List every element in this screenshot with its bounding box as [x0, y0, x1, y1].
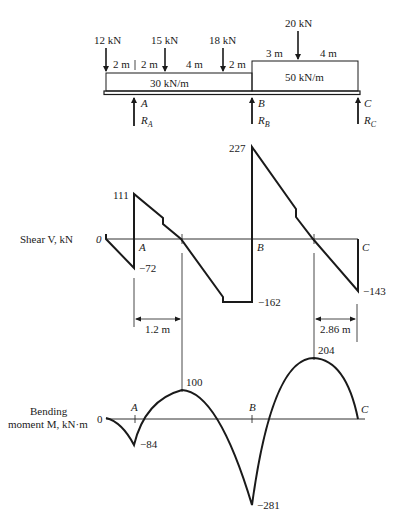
support-label-c: C — [364, 97, 372, 109]
moment-point-a: A — [130, 401, 138, 413]
support-label-b: B — [258, 97, 265, 109]
shear-point-a: A — [138, 241, 146, 253]
span-label: 2 m — [141, 58, 158, 70]
loading-diagram: 30 kN/m 50 kN/m 12 kN 15 kN 18 kN 20 kN … — [94, 17, 377, 129]
moment-curve — [106, 358, 358, 505]
shear-curve — [106, 147, 358, 302]
support-label-a: A — [140, 97, 148, 109]
shear-point-b: B — [257, 241, 264, 253]
beam — [104, 91, 360, 95]
distributed-load-50-label: 50 kN/m — [285, 71, 324, 83]
shear-value-neg143: −143 — [363, 285, 386, 297]
moment-zero-label: 0 — [97, 413, 103, 425]
moment-axis-label-1: Bending — [30, 405, 68, 417]
shear-value-neg72: −72 — [139, 262, 156, 274]
point-load-label: 20 kN — [285, 17, 312, 29]
shear-diagram: Shear V, kN 0 A B C 111 227 −72 −162 −14… — [20, 142, 386, 308]
moment-value-neg84: −84 — [140, 438, 158, 450]
dimension-label-2: 2.86 m — [320, 323, 351, 335]
shear-zero-label: 0 — [96, 233, 102, 245]
span-label: 4 m — [320, 47, 337, 59]
span-label: 2 m — [113, 58, 130, 70]
shear-value-111: 111 — [113, 189, 129, 201]
shear-value-227: 227 — [229, 142, 246, 154]
reaction-label-c: RC — [363, 114, 377, 129]
moment-diagram: Bending moment M, kN·m 0 A B C 100 204 −… — [8, 344, 369, 511]
dimension-label-1: 1.2 m — [145, 323, 171, 335]
moment-value-100: 100 — [186, 376, 203, 388]
shear-point-c: C — [362, 241, 370, 253]
moment-value-neg281: −281 — [257, 499, 280, 511]
point-load-label: 12 kN — [94, 34, 121, 46]
point-load-label: 18 kN — [209, 34, 236, 46]
moment-axis-label-2: moment M, kN·m — [8, 418, 88, 430]
point-load-label: 15 kN — [151, 34, 178, 46]
moment-point-b: B — [249, 401, 256, 413]
reaction-label-a: RA — [140, 114, 153, 129]
moment-point-c: C — [361, 403, 369, 415]
beam-diagram: 30 kN/m 50 kN/m 12 kN 15 kN 18 kN 20 kN … — [0, 0, 402, 525]
dimensions: 1.2 m 2.86 m — [134, 253, 357, 392]
span-label: 2 m — [229, 58, 246, 70]
moment-value-204: 204 — [318, 344, 335, 356]
shear-value-neg162: −162 — [258, 296, 281, 308]
span-label: 3 m — [266, 47, 283, 59]
shear-axis-label: Shear V, kN — [20, 233, 73, 245]
distributed-load-30-label: 30 kN/m — [150, 77, 189, 89]
reaction-label-b: RB — [257, 114, 270, 129]
span-label: 4 m — [186, 58, 203, 70]
